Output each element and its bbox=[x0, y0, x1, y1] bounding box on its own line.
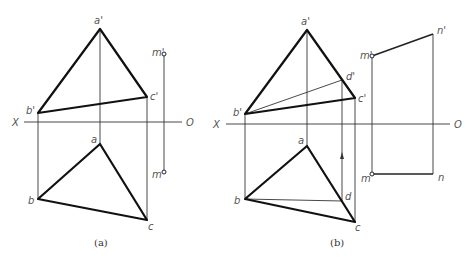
triangle-top-a bbox=[38, 144, 147, 220]
figure-a: X O a' b' c' m' a b c m (a) bbox=[11, 15, 194, 248]
arrow-up-icon bbox=[340, 152, 344, 159]
label-b-prime-a: b' bbox=[26, 105, 35, 116]
projection-diagram: X O a' b' c' m' a b c m (a) bbox=[0, 0, 473, 262]
caption-b: (b) bbox=[330, 237, 344, 248]
label-c-prime-a: c' bbox=[150, 91, 158, 102]
triangle-top-b bbox=[245, 146, 355, 222]
label-o-b: O bbox=[454, 119, 462, 130]
line-m-prime-n-prime bbox=[372, 34, 433, 56]
label-o-a: O bbox=[186, 117, 194, 128]
label-b-b: b bbox=[234, 195, 240, 206]
label-c-prime-b: c' bbox=[358, 93, 366, 104]
figure-b: X O a' b' c' d' m' n' a b c d m n (b) bbox=[212, 16, 462, 248]
label-m-prime-a: m' bbox=[152, 47, 165, 58]
label-b-a: b bbox=[28, 195, 34, 206]
label-a-prime-b: a' bbox=[301, 16, 310, 27]
point-m-a bbox=[162, 170, 166, 174]
label-n-b: n bbox=[438, 172, 444, 183]
label-c-a: c bbox=[148, 221, 154, 232]
triangle-front-a bbox=[38, 29, 147, 113]
label-a-b: a bbox=[298, 135, 304, 146]
label-a-prime-a: a' bbox=[94, 15, 103, 26]
line-bd bbox=[245, 199, 342, 201]
label-b-prime-b: b' bbox=[233, 107, 242, 118]
line-b-prime-d-prime bbox=[245, 80, 342, 114]
label-x-a: X bbox=[11, 117, 20, 128]
label-m-b: m bbox=[361, 173, 371, 184]
label-m-a: m bbox=[152, 169, 162, 180]
label-n-prime-b: n' bbox=[437, 25, 446, 36]
label-d-b: d bbox=[345, 191, 352, 202]
caption-a: (a) bbox=[94, 237, 108, 248]
label-d-prime-b: d' bbox=[346, 71, 355, 82]
label-m-prime-b: m' bbox=[360, 50, 373, 61]
label-c-b: c bbox=[355, 222, 361, 233]
label-a-a: a bbox=[91, 134, 97, 145]
triangle-front-b bbox=[245, 30, 355, 114]
label-x-b: X bbox=[212, 119, 221, 130]
